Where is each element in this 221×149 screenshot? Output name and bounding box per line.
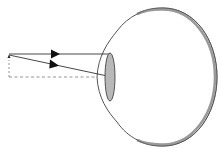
lens	[105, 53, 115, 101]
ray-diagonal-arrowhead-icon	[49, 60, 59, 69]
ray-parallel-arrowhead-icon	[51, 50, 60, 59]
ray-through-center	[9, 55, 112, 77]
eye-ray-diagram	[0, 0, 221, 149]
diagram-canvas	[0, 0, 221, 149]
